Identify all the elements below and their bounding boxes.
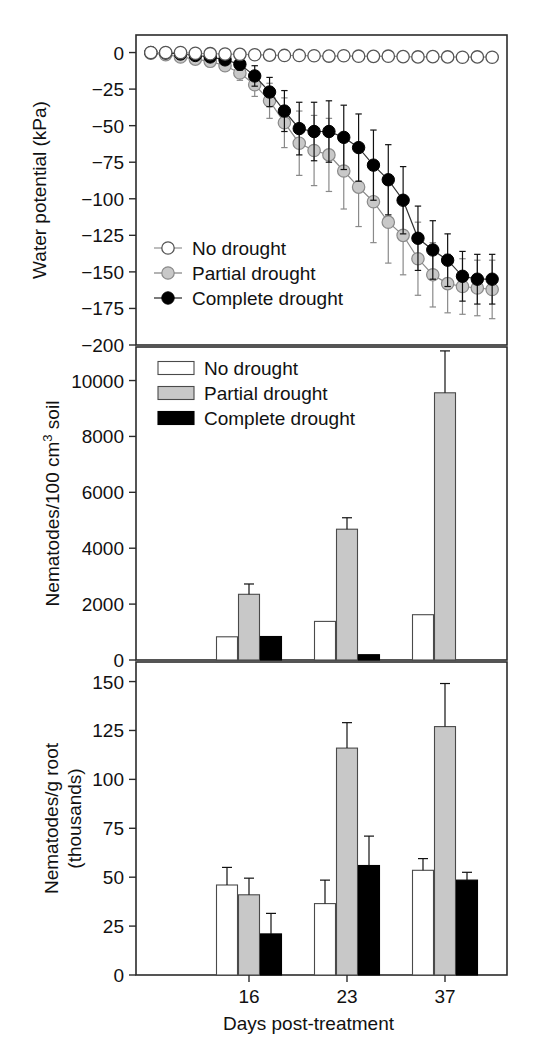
top-data-point [278,105,290,117]
top-y-tick-label: −50 [92,116,124,137]
top-data-point [159,46,171,58]
multi-panel-figure: 0−25−50−75−100−125−150−175−200Water pote… [0,0,539,1055]
top-data-point [145,46,157,58]
middle-legend-label: Complete drought [204,408,356,429]
bottom-y-tick-label: 0 [113,965,124,986]
bottom-bar [239,895,260,975]
middle-legend-swatch [158,412,194,425]
top-data-point [249,70,261,82]
top-data-point [249,49,261,61]
middle-bar [217,637,238,660]
top-data-point [308,125,320,137]
bottom-bar [217,885,238,975]
top-data-point [352,50,364,62]
bottom-y-tick-label: 50 [103,867,124,888]
bottom-bar [359,866,380,976]
middle-y-tick-label: 4000 [82,538,124,559]
middle-y-tick-label: 6000 [82,482,124,503]
top-data-point [293,122,305,134]
middle-bar [337,529,358,660]
top-y-tick-label: 0 [113,43,124,64]
bottom-y-tick-label: 25 [103,916,124,937]
top-data-point [427,244,439,256]
bottom-bar [413,870,434,975]
middle-y-tick-label: 2000 [82,594,124,615]
top-data-point [323,125,335,137]
top-data-point [352,141,364,153]
top-data-point [397,50,409,62]
top-data-point [412,232,424,244]
middle-legend-swatch [158,362,194,375]
top-data-point [367,159,379,171]
middle-y-tick-label: 8000 [82,426,124,447]
top-data-point [174,46,186,58]
top-y-tick-label: −150 [81,262,124,283]
middle-y-tick-label: 10000 [71,371,124,392]
top-data-point [338,131,350,143]
top-y-tick-label: −200 [81,335,124,356]
top-y-tick-label: −175 [81,298,124,319]
top-data-point [352,181,364,193]
top-data-point [204,48,216,60]
bottom-y-axis-title-line: Nematodes/g root [41,742,62,894]
bottom-bar [261,934,282,975]
top-legend-label: Partial drought [192,263,316,284]
top-data-point [382,50,394,62]
top-data-point [263,86,275,98]
top-data-point [219,48,231,60]
middle-y-axis-title: Nematodes/100 cm3 soil [40,401,64,607]
top-y-axis-title: Water potential (kPa) [29,101,50,279]
middle-legend-label: No drought [204,358,299,379]
top-data-point [441,51,453,63]
top-data-point [471,273,483,285]
top-legend-marker [162,292,174,304]
top-legend-marker [162,242,174,254]
top-data-point [189,47,201,59]
top-legend-label: No drought [192,238,287,259]
top-data-point [486,51,498,63]
bottom-bar [435,727,456,975]
top-data-point [382,216,394,228]
top-data-point [323,50,335,62]
top-data-point [427,50,439,62]
bottom-y-tick-label: 75 [103,818,124,839]
top-data-point [382,174,394,186]
figure-container: 0−25−50−75−100−125−150−175−200Water pote… [0,0,539,1055]
middle-bar [261,637,282,661]
middle-bar [413,615,434,660]
top-data-point [234,48,246,60]
top-data-point [456,51,468,63]
top-legend-label: Complete drought [192,288,344,309]
bottom-y-tick-label: 150 [92,672,124,693]
bottom-bar [457,880,478,975]
top-y-tick-label: −75 [92,152,124,173]
top-data-point [471,51,483,63]
x-axis-title: Days post-treatment [223,1013,395,1034]
bottom-y-axis-title-line: (thousands) [64,768,85,868]
top-legend-marker [162,267,174,279]
top-data-point [441,254,453,266]
top-data-point [397,194,409,206]
middle-bar [359,655,380,660]
bottom-bar [315,904,336,975]
bottom-bar [337,748,358,975]
middle-bar [239,594,260,660]
middle-bar [435,393,456,660]
middle-bar [315,621,336,660]
top-y-tick-label: −25 [92,79,124,100]
top-data-point [278,49,290,61]
x-tick-label: 23 [336,986,357,1007]
top-data-point [456,270,468,282]
x-tick-label: 37 [434,986,455,1007]
top-data-point [412,51,424,63]
top-data-point [486,273,498,285]
top-data-point [338,50,350,62]
top-data-point [263,49,275,61]
middle-legend-label: Partial drought [204,383,328,404]
middle-y-axis-title-line: Nematodes/100 cm3 soil [40,401,64,607]
middle-y-tick-label: 0 [113,650,124,671]
bottom-y-tick-label: 125 [92,720,124,741]
middle-legend-swatch [158,387,194,400]
top-y-tick-label: −125 [81,225,124,246]
top-data-point [308,50,320,62]
